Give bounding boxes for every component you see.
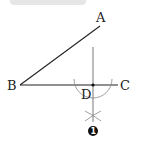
label-a: A: [95, 10, 106, 25]
point-d-dot: [91, 83, 94, 86]
label-b: B: [7, 78, 17, 93]
geometry-diagram: A B C D 1: [0, 0, 142, 147]
step-marker-label: 1: [91, 127, 97, 136]
label-d: D: [81, 87, 91, 102]
segment-ba: [20, 26, 100, 85]
label-c: C: [120, 78, 130, 93]
